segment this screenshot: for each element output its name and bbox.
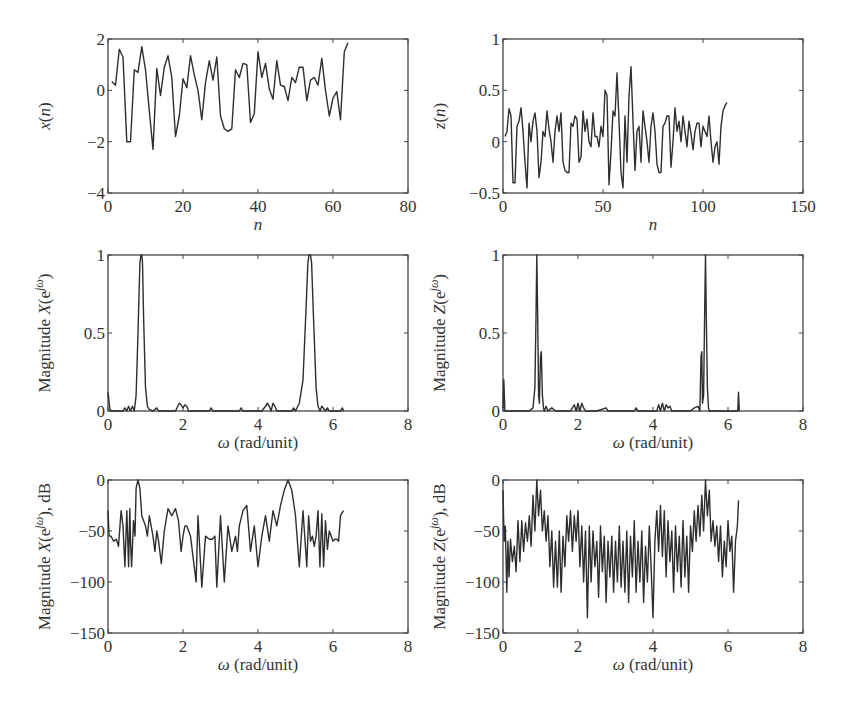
y-tick-label: 1 <box>492 246 501 265</box>
subplot-X_mag: 0246800.51ω (rad/unit)Magnitude X(ejω) <box>32 246 412 452</box>
x-tick-label: 20 <box>175 197 192 216</box>
y-tick-label: 1 <box>97 246 106 265</box>
subplot-Z_mag: 0246800.51ω (rad/unit)Magnitude Z(ejω) <box>427 246 807 452</box>
x-tick-label: 8 <box>799 637 808 656</box>
series-line <box>503 255 739 411</box>
x-tick-label: 4 <box>649 637 658 656</box>
x-tick-label: 4 <box>254 415 263 434</box>
subplot-zn: 050100150−0.500.51nz(n) <box>430 30 816 234</box>
x-tick-label: 6 <box>724 637 733 656</box>
y-axis-label: x(n) <box>35 102 54 130</box>
subplot-Z_dB: 02468−150−100−500ω (rad/unit)Magnitude Z… <box>427 471 807 674</box>
x-axis-label: ω (rad/unit) <box>218 655 298 674</box>
x-tick-label: 80 <box>400 197 417 216</box>
y-axis-label: Magnitude Z(ejω) <box>427 274 449 392</box>
x-tick-label: 6 <box>724 415 733 434</box>
y-tick-label: −100 <box>465 573 500 592</box>
x-axis-label: n <box>254 215 263 234</box>
y-tick-label: 0 <box>492 471 501 490</box>
x-tick-label: 60 <box>325 197 342 216</box>
y-axis-label: Magnitude Z(ejω), dB <box>427 483 449 629</box>
y-tick-label: 1 <box>492 30 501 49</box>
x-tick-label: 100 <box>690 197 716 216</box>
y-axis-label: Magnitude X(ejω) <box>32 274 54 393</box>
x-tick-label: 0 <box>104 637 113 656</box>
y-tick-label: 0 <box>492 133 501 152</box>
figure: 020406080−4−202nx(n)050100150−0.500.51nz… <box>0 0 842 714</box>
y-tick-label: 2 <box>97 30 106 49</box>
x-tick-label: 0 <box>104 415 113 434</box>
x-axis-label: ω (rad/unit) <box>613 433 693 452</box>
x-tick-label: 8 <box>404 637 413 656</box>
subplot-X_dB: 02468−150−100−500ω (rad/unit)Magnitude X… <box>32 471 412 674</box>
plot-frame <box>108 255 408 411</box>
y-axis-label: z(n) <box>430 103 449 130</box>
y-tick-label: 0.5 <box>84 324 105 343</box>
x-axis-label: ω (rad/unit) <box>218 433 298 452</box>
y-tick-label: 0 <box>97 471 106 490</box>
y-tick-label: 0.5 <box>479 324 500 343</box>
subplot-xn: 020406080−4−202nx(n) <box>35 30 417 234</box>
x-tick-label: 2 <box>574 415 583 434</box>
series-line <box>505 67 727 188</box>
x-tick-label: 150 <box>790 197 816 216</box>
x-tick-label: 40 <box>250 197 267 216</box>
y-tick-label: −150 <box>465 624 500 643</box>
y-tick-label: −50 <box>473 522 500 541</box>
x-tick-label: 4 <box>254 637 263 656</box>
y-tick-label: −4 <box>87 184 106 203</box>
y-tick-label: −150 <box>70 624 105 643</box>
y-axis-label: Magnitude X(ejω), dB <box>32 483 54 630</box>
x-tick-label: 0 <box>499 415 508 434</box>
series-line <box>108 255 344 411</box>
y-tick-label: −50 <box>78 522 105 541</box>
x-tick-label: 2 <box>179 415 188 434</box>
y-tick-label: −2 <box>87 133 105 152</box>
y-tick-label: −0.5 <box>469 184 500 203</box>
x-tick-label: 6 <box>329 415 338 434</box>
x-tick-label: 4 <box>649 415 658 434</box>
plot-frame <box>503 255 803 411</box>
x-tick-label: 2 <box>179 637 188 656</box>
y-tick-label: −100 <box>70 573 105 592</box>
x-tick-label: 0 <box>499 197 508 216</box>
x-tick-label: 2 <box>574 637 583 656</box>
y-tick-label: 0 <box>492 402 501 421</box>
y-tick-label: 0 <box>97 81 106 100</box>
x-axis-label: ω (rad/unit) <box>613 655 693 674</box>
y-tick-label: 0.5 <box>479 81 500 100</box>
x-tick-label: 8 <box>404 415 413 434</box>
series-line <box>108 480 344 587</box>
x-tick-label: 0 <box>104 197 113 216</box>
series-line <box>112 43 348 150</box>
x-tick-label: 50 <box>595 197 612 216</box>
plot-frame <box>108 480 408 633</box>
x-tick-label: 6 <box>329 637 338 656</box>
x-tick-label: 8 <box>799 415 808 434</box>
x-tick-label: 0 <box>499 637 508 656</box>
series-line <box>503 480 739 618</box>
y-tick-label: 0 <box>97 402 106 421</box>
x-axis-label: n <box>649 215 658 234</box>
